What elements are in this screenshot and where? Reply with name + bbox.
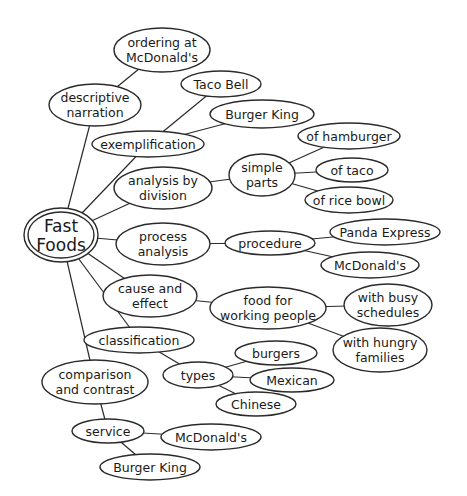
node-label: Mexican	[266, 373, 318, 388]
node-label: McDonald's	[126, 50, 198, 65]
node-label: parts	[246, 175, 278, 190]
node-label: of taco	[330, 163, 373, 178]
node-simple_parts: simpleparts	[229, 154, 295, 196]
node-label: schedules	[357, 305, 420, 320]
node-label: of rice bowl	[313, 193, 385, 208]
node-label: and contrast	[55, 382, 134, 397]
node-label: types	[181, 368, 215, 383]
cluster-diagram: ordering atMcDonald'sdescriptivenarratio…	[0, 0, 467, 496]
node-burger_king_top: Burger King	[210, 100, 314, 128]
node-taco_bell: Taco Bell	[181, 71, 261, 97]
node-label: families	[356, 350, 405, 365]
node-label: Foods	[36, 235, 86, 255]
node-label: comparison	[59, 367, 132, 382]
node-label: analysis by	[128, 173, 199, 188]
node-label: Taco Bell	[193, 77, 249, 92]
node-of_hamburger: of hamburger	[298, 123, 400, 149]
node-label: Burger King	[225, 107, 299, 122]
node-label: procedure	[238, 236, 302, 251]
node-label: of hamburger	[306, 129, 392, 144]
nodes-layer: ordering atMcDonald'sdescriptivenarratio…	[24, 28, 440, 480]
node-mcdonalds_service: McDonald's	[161, 424, 261, 450]
node-label: Fast	[44, 216, 78, 236]
node-label: food for	[244, 293, 294, 308]
node-ordering: ordering atMcDonald's	[114, 28, 210, 72]
node-burger_king_bottom: Burger King	[100, 454, 200, 480]
node-types: types	[163, 362, 233, 388]
node-service: service	[72, 419, 144, 443]
node-label: exemplification	[100, 137, 196, 152]
node-label: Panda Express	[340, 225, 431, 240]
node-analysis_division: analysis bydivision	[114, 167, 212, 209]
node-label: Burger King	[113, 460, 187, 475]
node-of_taco: of taco	[316, 158, 388, 182]
node-procedure: procedure	[225, 231, 315, 255]
node-busy: with busyschedules	[344, 284, 432, 326]
node-food_working: food forworking people	[210, 287, 326, 329]
node-label: simple	[241, 160, 283, 175]
node-chinese: Chinese	[216, 392, 296, 416]
node-label: division	[139, 188, 187, 203]
node-comparison: comparisonand contrast	[42, 360, 148, 404]
node-label: burgers	[252, 346, 300, 361]
node-label: analysis	[138, 244, 189, 259]
node-label: ordering at	[127, 35, 196, 50]
node-label: descriptive	[60, 90, 129, 105]
node-classification: classification	[84, 327, 194, 353]
node-process_analysis: processanalysis	[116, 223, 210, 265]
node-label: process	[139, 229, 187, 244]
node-panda_express: Panda Express	[330, 219, 440, 245]
node-label: cause and	[118, 281, 182, 296]
node-label: service	[86, 424, 131, 439]
node-label: with busy	[358, 290, 419, 305]
node-label: McDonald's	[175, 430, 247, 445]
node-cause_effect: cause andeffect	[103, 275, 197, 317]
node-label: with hungry	[343, 335, 418, 350]
node-label: McDonald's	[334, 258, 406, 273]
node-label: narration	[66, 105, 123, 120]
center-node: FastFoods	[24, 208, 98, 262]
node-descriptive: descriptivenarration	[49, 84, 141, 126]
node-label: working people	[220, 308, 316, 323]
node-mcdonalds_proc: McDonald's	[321, 252, 419, 278]
node-label: effect	[132, 296, 168, 311]
node-exemplification: exemplification	[92, 131, 204, 157]
node-label: classification	[99, 333, 180, 348]
node-hungry: with hungryfamilies	[333, 328, 427, 372]
node-label: Chinese	[231, 397, 281, 412]
node-mexican: Mexican	[250, 368, 334, 392]
node-burgers: burgers	[235, 341, 317, 365]
node-of_rice_bowl: of rice bowl	[305, 187, 393, 213]
